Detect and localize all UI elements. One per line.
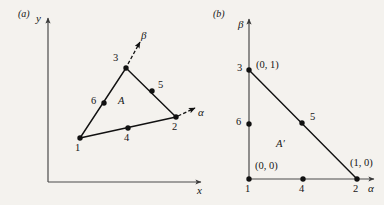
node-number-label: 4: [124, 133, 129, 144]
figure-canvas: [0, 0, 384, 205]
node-marker: [246, 67, 251, 72]
figure-root: (a) y x A (b) β α A′ αβ1234561(0, 0)2(1,…: [0, 0, 384, 205]
node-marker: [101, 100, 106, 105]
node-coordinate-label: (0, 1): [256, 60, 279, 71]
panel-a-axes: [48, 18, 201, 182]
node-marker: [299, 120, 304, 125]
node-marker: [354, 176, 359, 181]
node-number-label: 5: [158, 80, 163, 91]
node-marker: [246, 121, 251, 126]
node-number-label: 6: [236, 117, 241, 128]
panel-a-tag: (a): [18, 9, 30, 19]
node-marker: [149, 88, 154, 93]
panel-b-axes: [249, 19, 374, 179]
node-marker: [125, 125, 130, 130]
panel-b-alpha-axis-label: α: [368, 183, 374, 194]
panel-b-region-label: A′: [276, 139, 285, 150]
node-coordinate-label: (1, 0): [350, 158, 373, 169]
panel-a-x-axis-label: x: [197, 185, 202, 196]
node-marker: [300, 176, 305, 181]
local-axis-label: β: [141, 30, 146, 41]
node-marker: [173, 114, 178, 119]
node-number-label: 2: [172, 122, 177, 133]
node-number-label: 4: [299, 184, 304, 195]
panel-b-tag: (b): [213, 9, 225, 19]
panel-a-y-axis-label: y: [36, 13, 41, 24]
node-marker: [123, 65, 128, 70]
panel-b-beta-axis-label: β: [238, 19, 243, 30]
node-number-label: 6: [91, 96, 96, 107]
node-coordinate-label: (0, 0): [255, 161, 278, 172]
node-marker: [246, 176, 251, 181]
node-number-label: 2: [353, 184, 358, 195]
node-number-label: 5: [310, 112, 315, 123]
node-number-label: 3: [237, 63, 242, 74]
panel-a-region-label: A: [118, 96, 124, 107]
node-number-label: 1: [75, 143, 80, 154]
node-number-label: 1: [245, 184, 250, 195]
node-number-label: 3: [113, 53, 118, 64]
local-axis-label: α: [198, 107, 204, 118]
local-axis-arrow: [178, 108, 195, 116]
local-axis-arrow: [128, 42, 140, 64]
node-marker: [77, 135, 82, 140]
